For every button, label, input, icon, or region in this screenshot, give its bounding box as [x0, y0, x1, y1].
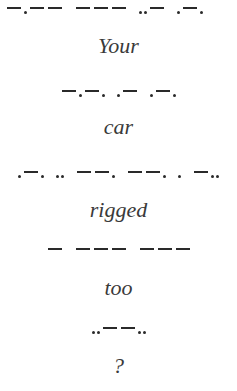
morse-letter	[17, 168, 45, 178]
word-car: car	[0, 114, 237, 140]
morse-letter	[74, 4, 128, 14]
morse-dot	[24, 11, 27, 14]
morse-dash	[183, 7, 197, 9]
morse-line-5	[0, 324, 237, 338]
morse-letter	[46, 245, 64, 255]
morse-letter	[138, 245, 192, 255]
morse-dash	[112, 248, 126, 250]
morse-letter	[60, 87, 106, 97]
morse-letter	[149, 87, 177, 97]
morse-dot	[177, 11, 180, 14]
morse-letter	[177, 168, 182, 178]
morse-dash	[95, 171, 109, 173]
morse-dash	[146, 171, 160, 173]
morse-line-3	[0, 168, 237, 182]
morse-letter	[126, 168, 167, 178]
morse-dot	[61, 175, 64, 178]
morse-dash	[112, 7, 126, 9]
morse-letter	[176, 4, 204, 14]
morse-dot	[143, 331, 146, 334]
morse-dash	[103, 327, 117, 329]
word-rigged: rigged	[0, 197, 237, 223]
morse-dash	[94, 248, 108, 250]
morse-dot	[139, 11, 142, 14]
morse-letter	[192, 168, 220, 178]
morse-dot	[211, 175, 214, 178]
morse-dash	[94, 7, 108, 9]
morse-dash	[150, 7, 164, 9]
morse-dash	[123, 90, 137, 92]
morse-dot	[117, 94, 120, 97]
morse-dash	[30, 7, 44, 9]
morse-dash	[48, 248, 62, 250]
word-question-mark: ?	[0, 353, 237, 379]
morse-dash	[7, 7, 21, 9]
morse-dash	[158, 248, 172, 250]
morse-line-2	[0, 87, 237, 101]
morse-dot	[18, 175, 21, 178]
morse-letter	[55, 168, 65, 178]
morse-dash	[121, 327, 135, 329]
morse-dot	[102, 94, 105, 97]
word-too: too	[0, 275, 237, 301]
morse-letter	[138, 4, 166, 14]
morse-letter	[74, 245, 128, 255]
morse-dot	[92, 331, 95, 334]
morse-dash	[194, 171, 208, 173]
morse-letter	[5, 4, 64, 14]
morse-dot	[216, 175, 219, 178]
morse-dot	[144, 11, 147, 14]
morse-dash	[85, 90, 99, 92]
morse-dash	[24, 171, 38, 173]
morse-dot	[173, 94, 176, 97]
morse-poem: Your car rigged too ?	[0, 0, 237, 391]
morse-letter	[116, 87, 139, 97]
morse-dash	[48, 7, 62, 9]
morse-dot	[79, 94, 82, 97]
morse-dot	[112, 175, 115, 178]
morse-letter	[91, 324, 147, 334]
morse-dot	[200, 11, 203, 14]
morse-dot	[56, 175, 59, 178]
morse-dot	[41, 175, 44, 178]
morse-line-4	[0, 245, 237, 259]
morse-dot	[150, 94, 153, 97]
morse-line-1	[0, 4, 223, 18]
morse-dot	[97, 331, 100, 334]
morse-dot	[163, 175, 166, 178]
morse-dash	[62, 90, 76, 92]
morse-dash	[128, 171, 142, 173]
morse-dot	[138, 331, 141, 334]
word-your: Your	[0, 33, 237, 59]
morse-dash	[76, 248, 90, 250]
morse-dash	[77, 171, 91, 173]
morse-letter	[75, 168, 116, 178]
morse-dash	[156, 90, 170, 92]
morse-dash	[76, 7, 90, 9]
morse-dash	[140, 248, 154, 250]
morse-dot	[178, 175, 181, 178]
morse-dash	[176, 248, 190, 250]
